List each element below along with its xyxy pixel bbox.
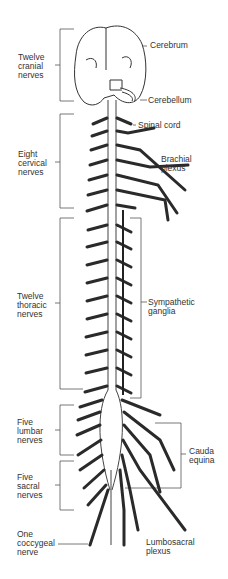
label-lumbar-nerves: Five lumbar nerves <box>17 418 43 445</box>
label-coccygeal-nerve: One coccygeal nerve <box>17 530 55 557</box>
label-sacral-nerves: Five sacral nerves <box>17 473 43 500</box>
spinal-nerves <box>77 118 188 545</box>
label-brachial-plexus: Brachial plexus <box>161 155 192 173</box>
label-cauda-equina: Cauda equina <box>189 447 215 465</box>
label-cerebrum: Cerebrum <box>150 41 188 50</box>
brackets <box>55 29 186 544</box>
label-cerebellum: Cerebellum <box>148 96 191 105</box>
label-cervical-nerves: Eight cervical nerves <box>18 150 47 177</box>
label-lumbosacral-plexus: Lumbosacral plexus <box>146 538 195 556</box>
label-cranial-nerves: Twelve cranial nerves <box>18 53 44 80</box>
label-spinal-cord: Spinal cord <box>138 121 181 130</box>
spinal-cord <box>100 100 122 545</box>
brain <box>75 26 146 105</box>
label-sympathetic-ganglia: Sympathetic ganglia <box>148 298 195 316</box>
label-thoracic-nerves: Twelve thoracic nerves <box>17 292 47 319</box>
